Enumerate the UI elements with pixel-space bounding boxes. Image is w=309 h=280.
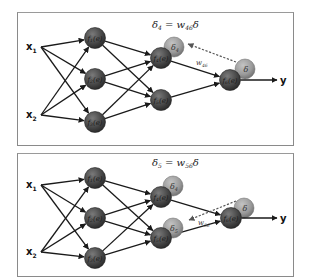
input-label-x1: x1 — [26, 179, 37, 192]
output-label-y: y — [280, 213, 287, 224]
edge-f1-f4 — [105, 181, 150, 194]
neuron-f6: f6(e) — [221, 208, 242, 229]
neuron-label: f4(e) — [152, 55, 168, 64]
neuron-f2: f2(e) — [85, 69, 106, 90]
edge-f2-f4 — [105, 61, 151, 75]
neuron-f3: f3(e) — [85, 248, 106, 269]
network-top: x1x2δ4δf1(e)f2(e)f3(e)f4(e)f5(e)f6(e)yw4… — [26, 19, 287, 133]
edge-x1-f1 — [41, 179, 84, 185]
neuron-f5: f5(e) — [151, 228, 172, 249]
edge-f4-f6 — [171, 200, 220, 215]
edge-f3-f4 — [103, 204, 153, 250]
backprop-diagram: x1x2δ4δf1(e)f2(e)f3(e)f4(e)f5(e)f6(e)yw4… — [0, 0, 309, 280]
edge-x1-f1 — [41, 40, 84, 47]
neuron-label: f2(e) — [86, 215, 102, 224]
edge-x1-f3 — [41, 185, 88, 249]
delta-equation: δ4 = w46δ — [152, 19, 199, 31]
network-bottom: x1x2δ4δ5δf1(e)f2(e)f3(e)f4(e)f5(e)f6(e)y… — [26, 157, 287, 269]
neuron-label: f5(e) — [152, 97, 168, 106]
weight-label: w46 — [196, 59, 208, 68]
error-label: δ — [244, 65, 249, 74]
edge-x1-f2 — [41, 185, 86, 212]
edge-f5-f6 — [171, 83, 219, 97]
neuron-f2: f2(e) — [85, 208, 106, 229]
error-label: δ — [243, 204, 248, 213]
edge-f1-f4 — [105, 41, 150, 55]
neuron-f4: f4(e) — [151, 48, 172, 69]
neuron-label: f1(e) — [86, 175, 102, 184]
neuron-label: f3(e) — [86, 255, 102, 264]
neuron-label: f6(e) — [221, 77, 237, 86]
edge-x2-f3 — [41, 115, 84, 121]
output-label-y: y — [280, 75, 287, 86]
delta-equation: δ5 = w56δ — [152, 157, 199, 169]
input-label-x2: x2 — [26, 246, 37, 259]
edge-x2-f3 — [41, 252, 84, 257]
neuron-label: f4(e) — [152, 194, 168, 203]
neuron-f3: f3(e) — [85, 112, 106, 133]
weight-label: w56 — [198, 219, 210, 228]
edge-x2-f2 — [41, 224, 86, 252]
neuron-f4: f4(e) — [151, 187, 172, 208]
neuron-f6: f6(e) — [220, 70, 241, 91]
edge-f3-f4 — [103, 66, 154, 115]
edge-x2-f1 — [41, 187, 89, 252]
input-label-x2: x2 — [26, 109, 37, 122]
neuron-label: f1(e) — [86, 35, 102, 44]
neuron-f1: f1(e) — [85, 168, 106, 189]
neuron-f5: f5(e) — [151, 90, 172, 111]
neuron-f1: f1(e) — [85, 28, 106, 49]
neuron-label: f3(e) — [86, 119, 102, 128]
neuron-label: f2(e) — [86, 76, 102, 85]
neuron-label: f5(e) — [152, 235, 168, 244]
neuron-label: f6(e) — [222, 215, 238, 224]
input-label-x1: x1 — [26, 41, 37, 54]
